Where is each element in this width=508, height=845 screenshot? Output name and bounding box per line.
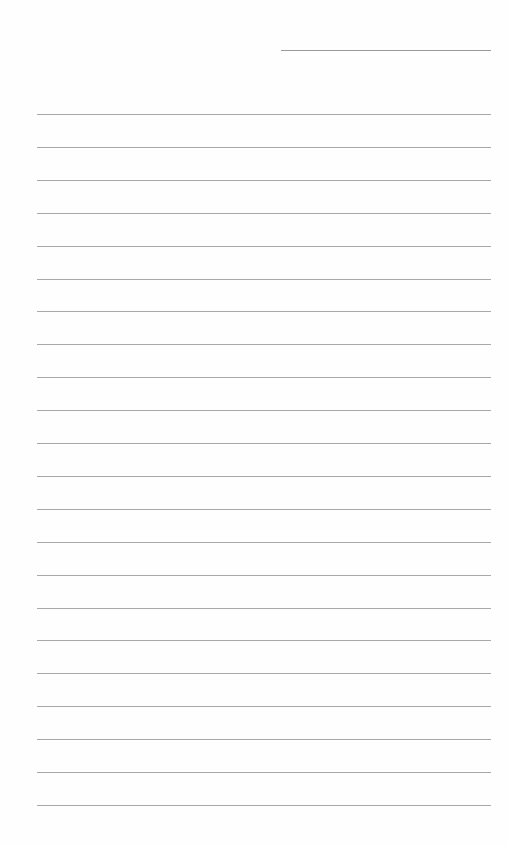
ruled-line xyxy=(37,410,491,411)
ruled-line xyxy=(37,246,491,247)
ruled-line xyxy=(37,542,491,543)
ruled-line xyxy=(37,443,491,444)
ruled-line xyxy=(37,608,491,609)
ruled-line xyxy=(37,213,491,214)
ruled-line xyxy=(37,640,491,641)
ruled-line xyxy=(37,673,491,674)
header-date-line xyxy=(281,50,491,51)
ruled-line xyxy=(37,575,491,576)
lined-page xyxy=(0,0,508,845)
ruled-line xyxy=(37,476,491,477)
ruled-line xyxy=(37,311,491,312)
ruled-line xyxy=(37,509,491,510)
ruled-line xyxy=(37,377,491,378)
ruled-line xyxy=(37,114,491,115)
ruled-line xyxy=(37,180,491,181)
ruled-line xyxy=(37,706,491,707)
ruled-line xyxy=(37,344,491,345)
ruled-line xyxy=(37,279,491,280)
ruled-line xyxy=(37,739,491,740)
ruled-line xyxy=(37,805,491,806)
ruled-line xyxy=(37,147,491,148)
ruled-line xyxy=(37,772,491,773)
